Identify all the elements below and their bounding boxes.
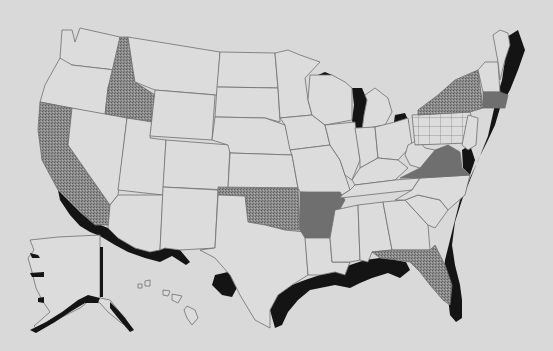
hawaii-molokai — [172, 294, 182, 303]
hawaii-big-island — [184, 306, 198, 325]
alaska-inset — [28, 235, 134, 333]
state-new-york — [418, 70, 483, 115]
hawaii-inset — [138, 280, 198, 325]
state-alaska — [28, 235, 130, 330]
us-map — [0, 0, 553, 351]
state-vermont-nh — [478, 62, 500, 92]
state-wyoming — [150, 90, 215, 140]
state-north-dakota — [217, 52, 278, 88]
alaska-west-band-3 — [38, 297, 44, 303]
alaska-border-band — [100, 247, 103, 297]
state-south-dakota — [215, 87, 280, 122]
state-colorado — [163, 140, 230, 190]
hawaii-kauai — [145, 280, 150, 286]
hawaii-maui — [163, 290, 170, 296]
state-mass-conn — [483, 92, 508, 108]
state-wisconsin — [308, 75, 352, 125]
state-mississippi — [330, 205, 360, 262]
state-kansas — [228, 153, 298, 188]
hawaii-oahu — [138, 284, 142, 288]
state-florida — [372, 245, 452, 305]
state-new-mexico — [160, 187, 218, 250]
states — [38, 28, 510, 328]
